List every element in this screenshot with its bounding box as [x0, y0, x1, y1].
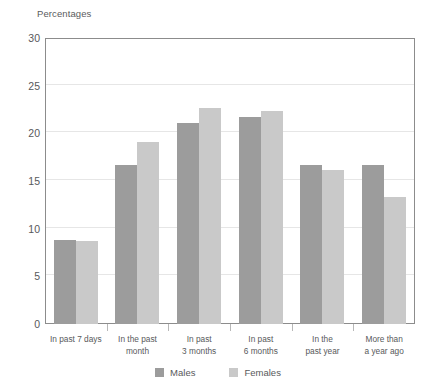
bar-males-3 — [239, 117, 261, 324]
y-tick-label: 10 — [2, 223, 40, 235]
bar-males-5 — [362, 165, 384, 324]
x-axis-category-label: In the past year — [292, 334, 354, 357]
bar-chart: Percentages 302520151050 In past 7 daysI… — [0, 0, 436, 392]
y-tick-label: 5 — [2, 270, 40, 282]
bar-females-0 — [76, 241, 98, 324]
bar-males-2 — [177, 123, 199, 324]
chart-axis-title: Percentages — [37, 8, 91, 19]
legend-item-males[interactable]: Males — [155, 367, 195, 378]
y-axis: 302520151050 — [0, 38, 40, 324]
x-axis-category-label: In past 7 days — [45, 334, 107, 346]
bar-females-2 — [199, 108, 221, 324]
y-tick-label: 0 — [2, 318, 40, 330]
legend-swatch-icon — [229, 368, 238, 377]
bar-group — [45, 38, 107, 324]
legend-label: Females — [244, 367, 280, 378]
bar-males-4 — [300, 165, 322, 324]
y-tick-label: 30 — [2, 32, 40, 44]
bar-group — [168, 38, 230, 324]
x-tick — [292, 324, 293, 331]
x-tick — [353, 324, 354, 331]
x-tick — [230, 324, 231, 331]
bar-females-5 — [384, 197, 406, 324]
y-tick-label: 15 — [2, 175, 40, 187]
legend-swatch-icon — [155, 368, 164, 377]
bar-females-1 — [137, 142, 159, 324]
x-axis-category-label: More than a year ago — [353, 334, 415, 357]
bar-males-0 — [54, 240, 76, 324]
bar-group — [107, 38, 169, 324]
bar-males-1 — [115, 165, 137, 324]
bar-group — [230, 38, 292, 324]
chart-legend: MalesFemales — [0, 367, 436, 378]
x-axis-category-label: In the past month — [107, 334, 169, 357]
bar-females-3 — [261, 111, 283, 324]
x-axis-category-label: In past 6 months — [230, 334, 292, 357]
bars-layer — [45, 38, 415, 324]
x-axis-labels: In past 7 daysIn the past monthIn past 3… — [45, 334, 415, 370]
y-tick-label: 20 — [2, 127, 40, 139]
bar-females-4 — [322, 170, 344, 324]
bar-group — [292, 38, 354, 324]
bar-group — [353, 38, 415, 324]
legend-item-females[interactable]: Females — [229, 367, 280, 378]
y-tick-label: 25 — [2, 80, 40, 92]
x-tick — [168, 324, 169, 331]
x-axis-category-label: In past 3 months — [168, 334, 230, 357]
x-axis-ticks — [45, 324, 415, 331]
legend-label: Males — [170, 367, 195, 378]
x-tick — [107, 324, 108, 331]
